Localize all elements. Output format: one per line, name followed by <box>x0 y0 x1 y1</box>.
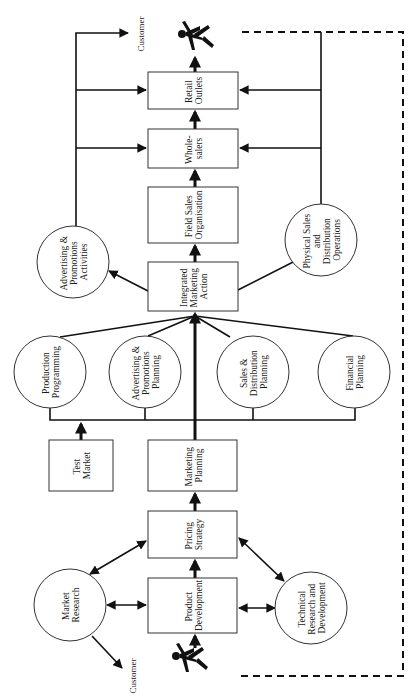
svg-text:Field Sales Organisation: Field Sales Organisation <box>184 190 204 239</box>
box-test-market: Test Market <box>49 440 113 491</box>
customer-label-bottom: Customer <box>128 658 138 693</box>
svg-text:Production Programming: Production Programming <box>41 346 61 398</box>
circle-advertising-promotions-activities: Advertising & Promotions Activities <box>37 226 109 298</box>
svg-text:Whole- salers: Whole- salers <box>184 133 204 164</box>
advertising-feed-line <box>76 33 128 226</box>
circle-financial-planning: Financial Planning <box>318 336 390 408</box>
circle-sales-distribution-planning: Sales & Distribution Planning <box>217 336 289 408</box>
arrow-ima-to-adv-activities <box>109 271 148 291</box>
box-retail-outlets: Retail Outlets <box>148 72 238 109</box>
box-integrated-marketing-action: Integrated Marketing Action <box>148 262 238 311</box>
circle-physical-sales-distribution: Physical Sales and Distribution Operatio… <box>285 204 357 276</box>
svg-text:Physical Sales and: Physical Sales and Distribution Operatio… <box>302 212 342 269</box>
svg-text:Retail Outlets: Retail Outlets <box>184 76 204 104</box>
svg-text:Financial Planning: Financial Planning <box>345 353 365 391</box>
svg-text:Pricing Strategy: Pricing Strategy <box>184 518 204 550</box>
fan-production <box>60 316 195 337</box>
svg-text:Market Research: Market Research <box>61 587 81 622</box>
planning-bus-line <box>50 408 355 420</box>
svg-text:Marketing Planning: Marketing Planning <box>184 445 204 487</box>
circle-production-programming: Production Programming <box>14 336 86 408</box>
circle-technical-research-development: Technical Research and Development <box>275 572 347 644</box>
box-product-development: Product Development <box>148 578 237 633</box>
box-pricing-strategy: Pricing Strategy <box>148 511 237 558</box>
marketing-process-diagram: Retail Outlets Whole- salers Field Sales… <box>0 0 417 696</box>
arrow-market-research-to-customer <box>92 636 122 668</box>
circle-market-research: Market Research <box>34 569 106 641</box>
circle-advertising-promotions-planning: Advertising & Promotions Planning <box>109 336 181 408</box>
box-marketing-planning: Marketing Planning <box>148 440 237 491</box>
running-person-icon <box>172 643 208 672</box>
customer-label-top: Customer <box>136 16 146 51</box>
arrow-market-research-pricing <box>90 541 146 574</box>
running-person-icon <box>178 21 214 50</box>
box-wholesalers: Whole- salers <box>148 129 238 168</box>
svg-text:Technical Research and: Technical Research and Development <box>297 581 327 634</box>
fan-financial <box>195 316 353 336</box>
box-field-sales-organisation: Field Sales Organisation <box>148 187 238 243</box>
arrow-pricing-technical <box>239 538 284 581</box>
